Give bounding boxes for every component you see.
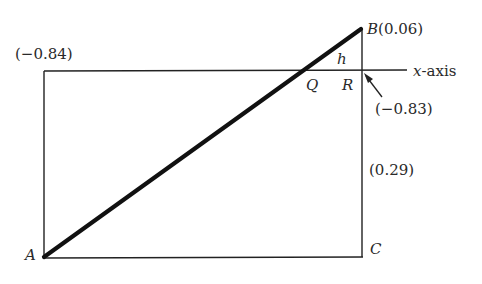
label-point-Q: Q [306,76,318,94]
label-top-left-value: (−0.84) [15,45,73,63]
arrow-head-icon [364,73,373,83]
x-axis-line [44,70,407,71]
label-point-R: R [341,76,353,94]
label-point-C: C [370,240,382,258]
rect-bottom-side [44,257,363,258]
label-R-value: (−0.83) [375,100,433,118]
label-point-B: B(0.06) [366,20,423,38]
label-h: h [337,50,347,68]
label-right-side-value: (0.29) [369,161,414,179]
label-x-axis: x-axis [413,62,456,80]
diagonal-AB [44,29,361,257]
label-point-A: A [23,246,36,264]
diagram-canvas: (−0.84) B(0.06) h x-axis Q R (−0.83) (0.… [0,0,482,284]
